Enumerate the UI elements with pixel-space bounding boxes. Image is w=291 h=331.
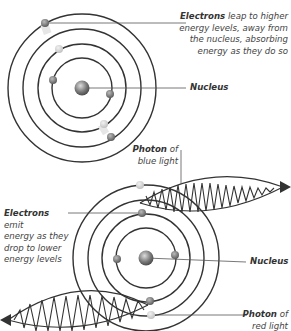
blue-photon-wave [140,177,283,212]
nucleus-top [75,81,90,96]
red-photon-wave [8,291,148,331]
label-electrons-emit: Electrons emit energy as they drop to lo… [4,208,70,266]
leader-nucleus-bottom [146,258,246,262]
label-photon-red: Photon of red light [230,309,288,331]
electron [138,209,146,217]
electron-excited [100,120,108,128]
label-nucleus-top: Nucleus [190,82,228,94]
electron [171,251,179,259]
electron [107,133,115,141]
arrow-left-icon [0,314,11,326]
label-nucleus-bottom: Nucleus [250,256,288,268]
electron-excited [147,311,155,319]
electron [146,297,154,305]
electron [49,76,57,84]
label-photon-blue: Photon of blue light [120,144,178,167]
electron [106,90,114,98]
electron [41,19,49,27]
electron-excited [136,181,144,189]
nucleus-bottom [139,251,154,266]
label-electrons-absorb: Electrons leap to higher energy levels, … [150,11,288,57]
arrow-right-icon [280,181,291,193]
electron [113,255,121,263]
electron-excited [55,45,63,53]
